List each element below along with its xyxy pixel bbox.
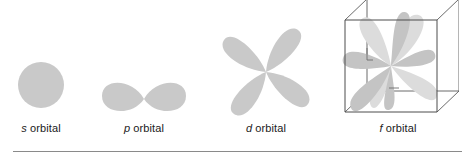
orbital-caption-text-f: orbital [383, 122, 417, 134]
p-orbital-lobe-left [102, 83, 144, 111]
orbital-caption-text-p: orbital [130, 122, 164, 134]
orbital-panel-s: s orbital [0, 0, 82, 148]
d-orbital-diagram [220, 0, 312, 120]
orbital-panel-f: f orbital [337, 0, 459, 148]
orbital-caption-p: p orbital [98, 122, 190, 135]
d-orbital-lobe-lower-left [266, 29, 301, 72]
f-orbital-lobe-back-lower-right [391, 66, 437, 100]
orbital-caption-text-s: orbital [27, 122, 61, 134]
p-orbital-lobe-right [144, 83, 186, 111]
orbital-caption-s: s orbital [0, 122, 82, 135]
orbital-caption-d: d orbital [220, 122, 312, 135]
d-orbital-lobes [223, 29, 310, 116]
d-orbital-lobe-upper-right [231, 72, 266, 115]
orbital-caption-text-d: orbital [252, 122, 286, 134]
s-orbital-sphere [18, 62, 64, 108]
orbital-panel-d: d orbital [220, 0, 312, 148]
f-orbital-diagram [337, 0, 459, 120]
baseline-divider [13, 151, 462, 152]
p-orbital-diagram [98, 0, 190, 120]
orbital-shapes-figure: s orbital p orbital d orbital [0, 0, 474, 162]
d-orbital-lobe-lower-right [266, 72, 309, 107]
orbital-panel-p: p orbital [98, 0, 190, 148]
d-orbital-lobe-upper-left [223, 37, 266, 72]
s-orbital-diagram [0, 0, 82, 120]
orbital-caption-f: f orbital [337, 122, 459, 135]
